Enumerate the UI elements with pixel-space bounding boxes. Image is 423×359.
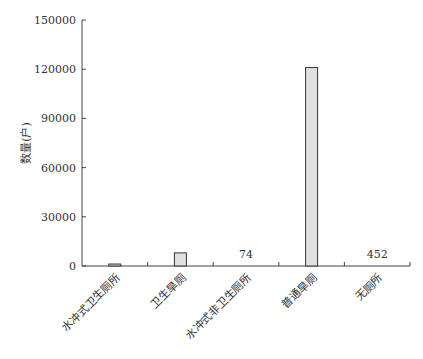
- y-tick-label: 0: [69, 260, 76, 273]
- y-tick-label: 90000: [41, 112, 76, 125]
- x-category-label: 水冲式非卫生厕所: [182, 270, 254, 342]
- x-category-label: 普通旱厕: [279, 270, 320, 311]
- y-axis-label: 数量(户): [19, 122, 33, 164]
- bar: [306, 68, 318, 266]
- data-label: 74: [239, 248, 253, 261]
- bar-chart: 0300006000090000120000150000数量(户)水冲式卫生厕所…: [0, 0, 423, 359]
- x-category-label: 水冲式卫生厕所: [59, 270, 123, 334]
- bar: [109, 264, 121, 266]
- data-label: 452: [367, 248, 388, 261]
- y-tick-label: 30000: [41, 211, 76, 224]
- y-tick-label: 150000: [34, 14, 76, 27]
- y-tick-label: 60000: [41, 162, 76, 175]
- bar: [174, 253, 186, 266]
- y-tick-label: 120000: [34, 63, 76, 76]
- x-category-label: 无厕所: [353, 271, 386, 304]
- x-category-label: 卫生旱厕: [148, 270, 189, 311]
